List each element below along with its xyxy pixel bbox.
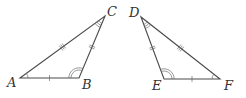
vertex-label-e: E — [151, 78, 162, 93]
angle-a-arc — [26, 73, 28, 78]
vertex-label-f: F — [223, 78, 234, 93]
vertex-label-d: D — [128, 5, 140, 20]
angle-d-arc — [144, 22, 148, 25]
angle-d-arc — [145, 25, 150, 29]
vertex-label-a: A — [6, 75, 16, 90]
congruent-triangles-diagram: A B C D E F — [0, 0, 246, 98]
angle-c-arc — [95, 23, 100, 27]
vertex-label-c: C — [107, 4, 117, 19]
angle-f-arc — [212, 74, 214, 79]
triangle-abc — [20, 16, 105, 81]
vertex-label-b: B — [81, 77, 92, 92]
angle-c-arc — [99, 21, 102, 24]
triangle-def — [141, 17, 220, 82]
